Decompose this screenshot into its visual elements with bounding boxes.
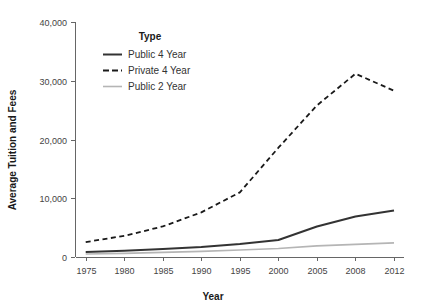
x-tick-label: 1985 bbox=[153, 266, 173, 276]
x-tick-label: 2012 bbox=[384, 266, 404, 276]
legend: Type Public 4 YearPrivate 4 YearPublic 2… bbox=[103, 31, 191, 92]
y-axis-title: Average Tuition and Fees bbox=[7, 89, 18, 210]
x-axis-title: Year bbox=[202, 291, 223, 302]
y-tick-label: 20,000 bbox=[39, 136, 67, 146]
x-tick-label: 2000 bbox=[268, 266, 288, 276]
legend-item-label: Public 2 Year bbox=[128, 81, 187, 92]
y-axis-ticks bbox=[71, 23, 75, 258]
x-tick-label: 1995 bbox=[230, 266, 250, 276]
series-line-private-4-year bbox=[86, 74, 394, 242]
legend-items: Public 4 YearPrivate 4 YearPublic 2 Year bbox=[103, 49, 191, 92]
legend-item-label: Public 4 Year bbox=[128, 49, 187, 60]
y-tick-label: 10,000 bbox=[39, 194, 67, 204]
data-series-group bbox=[86, 74, 394, 254]
y-tick-label: 40,000 bbox=[39, 18, 67, 28]
x-tick-label: 2008 bbox=[345, 266, 365, 276]
x-axis-tick-labels: 197519801985199019952000200520082012 bbox=[76, 266, 404, 276]
y-axis-tick-labels: 010,00020,00030,00040,000 bbox=[39, 18, 67, 263]
x-tick-label: 2005 bbox=[307, 266, 327, 276]
y-tick-label: 30,000 bbox=[39, 77, 67, 87]
legend-item-label: Private 4 Year bbox=[128, 65, 191, 76]
x-tick-label: 1990 bbox=[191, 266, 211, 276]
chart-container: 010,00020,00030,00040,000 19751980198519… bbox=[0, 0, 426, 307]
legend-title: Type bbox=[139, 31, 162, 42]
y-tick-label: 0 bbox=[62, 253, 67, 263]
line-chart: 010,00020,00030,00040,000 19751980198519… bbox=[0, 0, 426, 307]
axes-group bbox=[71, 22, 404, 261]
series-line-public-4-year bbox=[86, 211, 394, 252]
x-tick-label: 1975 bbox=[76, 266, 96, 276]
x-tick-label: 1980 bbox=[114, 266, 134, 276]
